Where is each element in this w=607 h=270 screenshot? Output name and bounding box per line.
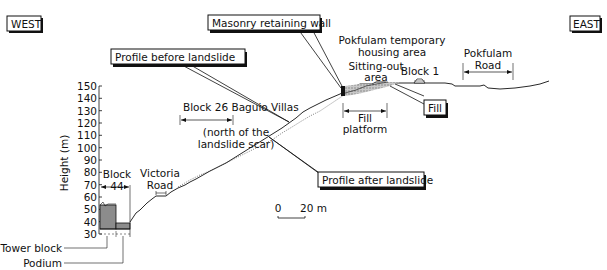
tick-140: 140 — [77, 92, 97, 104]
tower-block-shape — [100, 205, 116, 229]
tick-110: 110 — [77, 129, 97, 141]
sitting-out-line2: area — [364, 71, 387, 83]
scale-bar-start: 0 — [275, 202, 282, 214]
scale-bar-end: 20 m — [300, 202, 327, 214]
victoria-road-line1: Victoria — [140, 167, 180, 179]
callout-profile-after: Profile after landslide — [269, 137, 433, 190]
scale-bar: 0 20 m — [275, 202, 327, 218]
pokfulam-road-line1: Pokfulam — [464, 47, 512, 59]
tick-150: 150 — [77, 80, 97, 92]
block-44-building — [100, 185, 130, 237]
fill-platform-line2: platform — [343, 123, 388, 135]
block-26-label-line1: Block 26 Baguio Villas — [183, 101, 299, 113]
podium-label: Podium — [23, 257, 62, 269]
tick-40: 40 — [84, 216, 97, 228]
tick-100: 100 — [77, 142, 97, 154]
callout-fill: Fill — [390, 84, 448, 118]
tick-70: 70 — [84, 179, 97, 191]
fill-platform-annotation: Fill platform — [343, 103, 388, 135]
pokfulam-housing-line1: Pokfulam temporary — [339, 34, 446, 46]
block-26-label-line2: (north of the — [203, 126, 269, 138]
fill-label: Fill — [428, 102, 442, 114]
y-axis-label: Height (m) — [58, 135, 70, 191]
block-44-dimension: Block 44 — [101, 168, 132, 192]
tick-30: 30 — [84, 228, 97, 240]
tick-50: 50 — [84, 203, 97, 215]
block-1-building: Block 1 — [401, 65, 439, 83]
east-label: EAST — [573, 18, 600, 30]
pokfulam-housing-line2: housing area — [358, 46, 426, 58]
tick-120: 120 — [77, 117, 97, 129]
pokfulam-road-line2: Road — [475, 59, 501, 71]
tower-podium-leaders: Tower block Podium — [0, 236, 123, 269]
block-1-label: Block 1 — [401, 65, 439, 77]
tick-60: 60 — [84, 191, 97, 203]
victoria-road-line2: Road — [147, 179, 173, 191]
tick-130: 130 — [77, 105, 97, 117]
east-label-box: EAST — [570, 16, 602, 33]
west-label: WEST — [11, 18, 42, 30]
block-26-annotation: Block 26 Baguio Villas (north of the lan… — [180, 101, 299, 150]
tick-90: 90 — [84, 154, 97, 166]
fill-wedge — [345, 82, 400, 96]
block-44-label-line2: 44 — [110, 180, 124, 192]
block-44-label-line1: Block — [103, 168, 132, 180]
cross-section-diagram: WEST EAST 150 140 130 120 110 100 — [0, 0, 607, 270]
profile-after-label: Profile after landslide — [322, 174, 433, 186]
masonry-wall-label: Masonry retaining wall — [212, 17, 331, 29]
y-axis: 150 140 130 120 110 100 90 80 70 60 50 4… — [58, 80, 102, 240]
tower-block-label: Tower block — [0, 242, 63, 254]
pokfulam-road-annotation: Pokfulam Road — [463, 47, 513, 80]
podium-shape — [116, 223, 130, 229]
block-26-label-line3: landslide scar) — [198, 138, 275, 150]
tick-80: 80 — [84, 166, 97, 178]
west-label-box: WEST — [7, 16, 43, 33]
profile-before-label: Profile before landslide — [115, 51, 235, 63]
